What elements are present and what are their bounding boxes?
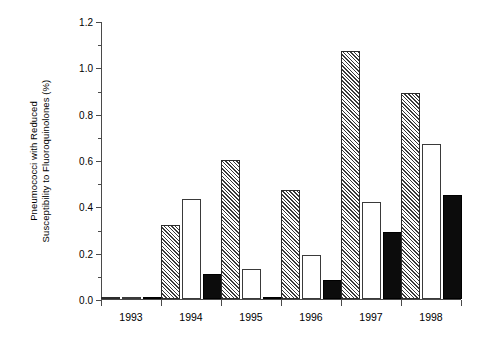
y-axis-tick-label: 0.4 <box>79 202 93 213</box>
y-axis-minor-tick <box>98 277 101 278</box>
y-axis-title-line-2: Susceptibility to Fluoroquinolones (%) <box>40 80 52 243</box>
y-axis-tick <box>96 161 101 162</box>
bar-1995-series-1-hatched <box>221 160 240 299</box>
y-axis-tick <box>96 115 101 116</box>
bar-1994-series-3-solid <box>203 274 222 299</box>
y-axis-minor-tick <box>98 138 101 139</box>
x-axis-tick-label: 1998 <box>419 311 442 323</box>
y-axis-line <box>101 22 102 300</box>
bar-1993-series-3-solid <box>143 297 162 299</box>
bar-1998-series-1-hatched <box>401 93 420 299</box>
bar-1997-series-2-open <box>362 202 381 299</box>
y-axis-tick-label: 1.2 <box>79 17 93 28</box>
x-axis-tick <box>341 300 342 306</box>
y-axis-tick-label: 0.6 <box>79 156 93 167</box>
x-axis-tick <box>101 300 102 306</box>
y-axis-tick-label: 0.2 <box>79 248 93 259</box>
x-axis-tick <box>461 300 462 306</box>
x-axis-tick-label: 1993 <box>119 311 142 323</box>
x-axis-tick <box>401 300 402 306</box>
y-axis-tick-label: 1.0 <box>79 63 93 74</box>
y-axis-minor-tick <box>98 92 101 93</box>
x-axis-tick-label: 1994 <box>179 311 202 323</box>
y-axis-tick <box>96 254 101 255</box>
bar-1995-series-3-solid <box>263 297 282 299</box>
y-axis-tick-label: 0.0 <box>79 295 93 306</box>
bar-1993-series-2-open <box>122 297 141 299</box>
y-axis-tick <box>96 207 101 208</box>
bar-1997-series-3-solid <box>383 232 402 299</box>
bar-1996-series-1-hatched <box>281 190 300 299</box>
bar-1997-series-1-hatched <box>341 51 360 299</box>
x-axis-tick-label: 1995 <box>239 311 262 323</box>
bar-1993-series-1-hatched <box>101 297 120 299</box>
bar-1994-series-2-open <box>182 199 201 299</box>
y-axis-tick <box>96 68 101 69</box>
bar-1998-series-2-open <box>422 144 441 299</box>
y-axis-title-line-1: Pneumococci with Reduced <box>28 101 39 221</box>
y-axis-minor-tick <box>98 45 101 46</box>
plot-area: 0.00.20.40.60.81.01.2 199319941995199619… <box>101 22 461 300</box>
bar-1995-series-2-open <box>242 269 261 299</box>
y-axis-tick-label: 0.8 <box>79 109 93 120</box>
bar-1996-series-3-solid <box>323 280 342 299</box>
x-axis-tick <box>161 300 162 306</box>
bar-1998-series-3-solid <box>443 195 462 299</box>
x-axis-tick <box>221 300 222 306</box>
bar-chart-figure: Pneumococci with Reduced Susceptibility … <box>0 0 479 344</box>
x-axis-tick <box>281 300 282 306</box>
x-axis-tick-label: 1996 <box>299 311 322 323</box>
bar-1996-series-2-open <box>302 255 321 299</box>
y-axis-title: Pneumococci with Reduced Susceptibility … <box>18 18 62 304</box>
y-axis-minor-tick <box>98 231 101 232</box>
y-axis-tick <box>96 22 101 23</box>
bar-1994-series-1-hatched <box>161 225 180 299</box>
y-axis-minor-tick <box>98 184 101 185</box>
x-axis-tick-label: 1997 <box>359 311 382 323</box>
